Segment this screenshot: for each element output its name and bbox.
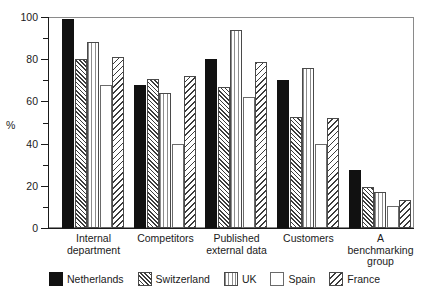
bar-group [62,17,125,228]
y-axis-minor-tick [43,80,48,81]
legend-label: UK [242,273,257,285]
legend-item[interactable]: Netherlands [49,272,124,286]
bar [75,59,87,228]
bar-group [205,17,268,228]
y-axis-tick-label: 0 [0,223,38,234]
x-axis-label-line: external data [192,245,282,257]
y-axis-tick-label: 40 [0,139,38,150]
y-axis-minor-tick [43,38,48,39]
y-axis-minor-tick [43,123,48,124]
x-axis-label-line: group [336,256,426,268]
legend-item[interactable]: Spain [270,272,315,286]
bar [349,170,361,228]
bar [290,117,302,228]
bar-group [349,17,412,228]
bar [327,118,339,228]
bar [302,68,314,228]
y-axis-tick [41,144,48,145]
x-axis-label-line: department [49,245,139,257]
y-axis-tick-label: 60 [0,96,38,107]
y-axis-tick-label: 100 [0,12,38,23]
bar [387,206,399,228]
bar [374,192,386,228]
legend-label: France [347,273,380,285]
bar [315,144,327,228]
legend-item[interactable]: France [329,272,380,286]
bar [159,93,171,228]
legend-item[interactable]: UK [224,272,257,286]
legend-label: Spain [288,273,315,285]
y-axis-minor-tick [43,207,48,208]
bar [184,76,196,228]
bar [243,97,255,228]
x-axis-line [48,228,414,229]
bar [277,80,289,228]
y-axis-tick [41,59,48,60]
bar [362,187,374,228]
y-axis-tick-label: 80 [0,54,38,65]
legend-item[interactable]: Switzerland [138,272,210,286]
y-axis-title: % [6,119,15,131]
y-axis-minor-tick [43,165,48,166]
legend-label: Netherlands [67,273,124,285]
bar [205,59,217,228]
bar [172,144,184,228]
bar [134,85,146,228]
bar [112,57,124,228]
bar [218,87,230,228]
y-axis-tick [41,101,48,102]
bar-group [134,17,197,228]
bar [100,85,112,228]
bar [87,42,99,228]
x-axis-tick-label: Abenchmarkinggroup [336,233,426,268]
legend-swatch-icon [49,272,63,286]
y-axis-tick [41,228,48,229]
y-axis-tick [41,186,48,187]
legend-label: Switzerland [156,273,210,285]
legend-swatch-icon [224,272,238,286]
legend-swatch-icon [138,272,152,286]
bars-layer [49,17,414,228]
x-axis-label-line: A [336,233,426,245]
bar [147,79,159,228]
chart-legend: NetherlandsSwitzerlandUKSpainFrance [0,268,429,290]
bar [230,30,242,228]
bar-group [277,17,340,228]
grouped-bar-chart: % 020406080100 InternaldepartmentCompeti… [0,0,429,302]
bar [399,200,411,228]
bar [62,19,74,228]
y-axis-tick-label: 20 [0,181,38,192]
bar [255,62,267,228]
y-axis-tick [41,17,48,18]
legend-swatch-icon [329,272,343,286]
legend-swatch-icon [270,272,284,286]
